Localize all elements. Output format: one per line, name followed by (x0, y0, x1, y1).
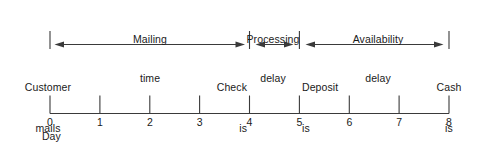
event-label-cash-is-available: Cash is available (406, 54, 492, 147)
span-label-mailing-line1: Mailing (100, 33, 200, 46)
axis-tick-label-2: 2 (140, 116, 160, 128)
axis-tick-label-0: 0 (40, 116, 60, 128)
event-label-deposit-is-made-line1: Deposit (302, 81, 382, 95)
span-label-processing-line1: Processing (226, 33, 320, 46)
event-label-check-is-received-line1: Check (168, 81, 247, 95)
event-label-check-is-received: Check is received (168, 54, 247, 147)
axis-tick-label-1: 1 (90, 116, 110, 128)
axis-tick-label-5: 5 (289, 116, 309, 128)
axis-tick-label-4: 4 (240, 116, 260, 128)
axis-tick-label-8: 8 (439, 116, 459, 128)
span-arrow-availability-head-right (434, 41, 444, 47)
axis-tick-label-6: 6 (339, 116, 359, 128)
axis-tick-label-7: 7 (389, 116, 409, 128)
axis-label-day: Day (42, 130, 61, 142)
span-arrow-mailing-head-left (55, 41, 65, 47)
axis-tick-label-3: 3 (190, 116, 210, 128)
event-label-cash-is-available-line1: Cash (406, 81, 492, 95)
timeline-diagram: Mailing time Processing delay Availabili… (0, 0, 493, 147)
span-label-availability-line1: Availability (328, 33, 428, 46)
event-label-deposit-is-made: Deposit is made (302, 54, 382, 147)
event-label-customer-mails-check-line1: Customer (7, 81, 89, 95)
